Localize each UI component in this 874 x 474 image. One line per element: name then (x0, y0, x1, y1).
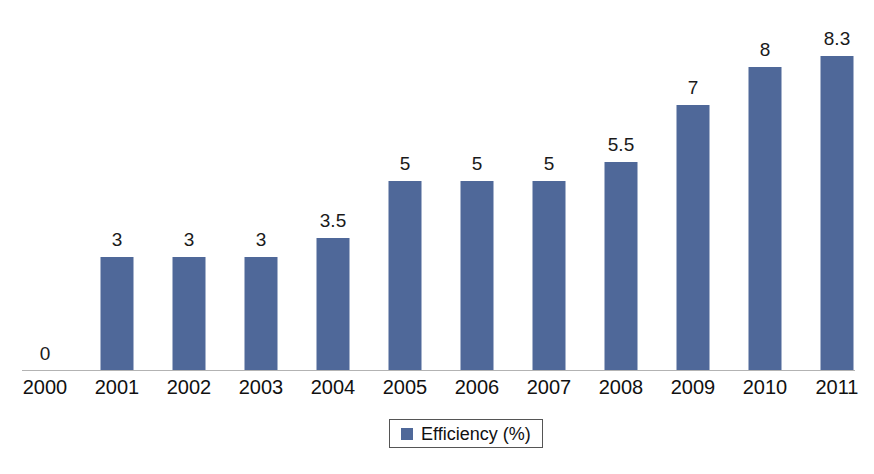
x-axis-tick-label: 2010 (729, 375, 801, 399)
x-axis-line (22, 370, 855, 371)
bar-group: 3.5 (297, 0, 369, 371)
x-axis-tick-label: 2003 (225, 375, 297, 399)
bar-group: 7 (657, 0, 729, 371)
bar[interactable] (461, 181, 494, 371)
bar-value-label: 3.5 (297, 211, 369, 230)
bar-value-label: 3 (81, 230, 153, 249)
bar-group: 5.5 (585, 0, 657, 371)
plot-area: 03333.55555.5788.3 (0, 0, 874, 371)
x-axis-tick-label: 2000 (9, 375, 81, 399)
bar-group: 8.3 (801, 0, 873, 371)
bar[interactable] (749, 67, 782, 371)
bar-group: 3 (81, 0, 153, 371)
x-axis-tick-label: 2005 (369, 375, 441, 399)
bar[interactable] (677, 105, 710, 371)
x-axis-tick-label: 2011 (801, 375, 873, 399)
bar[interactable] (605, 162, 638, 371)
bar-value-label: 5 (441, 154, 513, 173)
bar-value-label: 5 (513, 154, 585, 173)
x-axis-tick-label: 2004 (297, 375, 369, 399)
bar[interactable] (821, 56, 854, 371)
legend-label: Efficiency (%) (421, 425, 531, 443)
chart-legend: Efficiency (%) (389, 419, 543, 448)
x-axis-tick-label: 2002 (153, 375, 225, 399)
bar-group: 5 (441, 0, 513, 371)
bar[interactable] (245, 257, 278, 371)
bar-group: 3 (225, 0, 297, 371)
bar-group: 3 (153, 0, 225, 371)
x-axis-tick-label: 2007 (513, 375, 585, 399)
bar-value-label: 0 (9, 344, 81, 363)
legend-swatch-icon (401, 428, 413, 440)
bar-group: 8 (729, 0, 801, 371)
bar[interactable] (317, 238, 350, 371)
bar-value-label: 5 (369, 154, 441, 173)
bar-group: 5 (513, 0, 585, 371)
x-axis-tick-label: 2001 (81, 375, 153, 399)
x-axis-tick-label: 2009 (657, 375, 729, 399)
bar-value-label: 8.3 (801, 29, 873, 48)
bar-value-label: 3 (225, 230, 297, 249)
bar-value-label: 8 (729, 40, 801, 59)
bar[interactable] (389, 181, 422, 371)
x-axis-tick-label: 2006 (441, 375, 513, 399)
bar-value-label: 5.5 (585, 135, 657, 154)
category-axis: 2000200120022003200420052006200720082009… (0, 375, 874, 405)
bar-group: 5 (369, 0, 441, 371)
bar-value-label: 3 (153, 230, 225, 249)
bar[interactable] (533, 181, 566, 371)
bar-chart: 03333.55555.5788.3 200020012002200320042… (0, 0, 874, 474)
bar[interactable] (173, 257, 206, 371)
bar-group: 0 (9, 0, 81, 371)
bar[interactable] (101, 257, 134, 371)
bar-value-label: 7 (657, 78, 729, 97)
x-axis-tick-label: 2008 (585, 375, 657, 399)
